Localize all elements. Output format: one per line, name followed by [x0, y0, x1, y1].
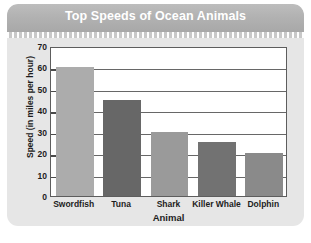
y-axis-tick [51, 155, 56, 156]
plot-inner [51, 48, 286, 196]
x-axis-tick-label: Swordfish [50, 199, 97, 209]
y-axis-tick-label: 40 [21, 106, 47, 116]
y-axis-tick-label: 10 [21, 171, 47, 181]
x-axis-tick-label: Tuna [97, 199, 144, 209]
bars-layer [51, 48, 286, 196]
y-axis-tick [51, 134, 56, 135]
plot-area [50, 47, 287, 197]
bar-dolphin[interactable] [245, 153, 283, 196]
y-axis-tick-label: 0 [21, 192, 47, 202]
x-axis-tick-label: Killer Whale [192, 199, 239, 209]
y-axis-tick [51, 177, 56, 178]
chart-header-band: Top Speeds of Ocean Animals [7, 4, 304, 32]
y-axis-tick-label: 30 [21, 128, 47, 138]
bar-shark[interactable] [151, 132, 189, 196]
y-axis-tick-label: 60 [21, 63, 47, 73]
plot-region: Speed (in miles per hour) 01020304050607… [7, 38, 304, 226]
y-axis-tick-label: 70 [21, 42, 47, 52]
x-axis-tick-labels: SwordfishTunaSharkKiller WhaleDolphin [50, 199, 287, 212]
bar-swordfish[interactable] [56, 67, 94, 196]
y-axis-tick [51, 91, 56, 92]
y-axis-tick [51, 112, 56, 113]
bar-tuna[interactable] [103, 100, 141, 196]
x-axis-title: Animal [50, 212, 287, 223]
chart-title: Top Speeds of Ocean Animals [7, 9, 304, 23]
y-axis-tick [51, 69, 56, 70]
bar-killer-whale[interactable] [198, 142, 236, 196]
y-axis-tick-label: 20 [21, 149, 47, 159]
x-axis-tick-label: Shark [145, 199, 192, 209]
y-axis-tick-label: 50 [21, 85, 47, 95]
chart-card: Top Speeds of Ocean Animals Speed (in mi… [7, 4, 304, 226]
y-axis-tick-labels: 010203040506070 [21, 47, 47, 197]
x-axis-tick-label: Dolphin [240, 199, 287, 209]
